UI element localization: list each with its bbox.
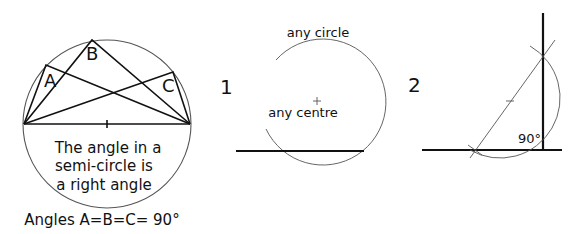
any-centre-label: any centre xyxy=(268,105,338,120)
figure-1: 1 any circle any centre xyxy=(220,25,386,165)
figure-1-number: 1 xyxy=(220,75,233,99)
vertex-label-b: B xyxy=(86,43,98,64)
caption-line-3: a right angle xyxy=(56,176,152,194)
figure-2-number: 2 xyxy=(408,73,421,97)
angles-footer: Angles A=B=C= 90° xyxy=(24,211,179,229)
right-angle-label: 90° xyxy=(518,131,541,146)
geometry-diagram: A B C The angle in a semi-circle is a ri… xyxy=(0,0,574,234)
caption-line-1: The angle in a xyxy=(54,139,162,157)
figure-2: 2 90° xyxy=(408,13,562,158)
vertex-label-c: C xyxy=(162,75,175,96)
any-circle-label: any circle xyxy=(287,25,350,40)
semicircle-figure: A B C The angle in a semi-circle is a ri… xyxy=(23,40,191,229)
vertex-label-a: A xyxy=(44,70,57,91)
construction-arc xyxy=(470,46,560,158)
caption-line-2: semi-circle is xyxy=(55,157,153,175)
any-circle-arc xyxy=(266,39,386,165)
